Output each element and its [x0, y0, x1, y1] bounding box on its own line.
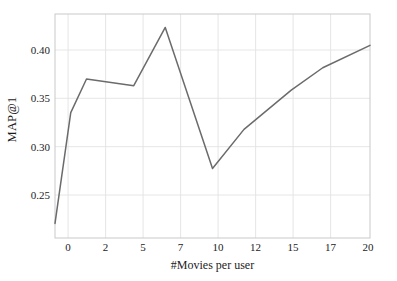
x-axis-tick-labels: 0 2 5 7 10 12 15 17 20: [0, 0, 397, 281]
x-tick-label: 7: [166, 241, 196, 253]
x-tick-label: 20: [353, 241, 383, 253]
x-tick-label: 0: [53, 241, 83, 253]
x-tick-label: 17: [316, 241, 346, 253]
x-axis-title: #Movies per user: [55, 258, 370, 273]
x-tick-label: 5: [128, 241, 158, 253]
x-tick-label: 2: [91, 241, 121, 253]
chart-figure: MAP@1 0.25 0.30 0.35 0.40 0 2 5: [0, 0, 397, 281]
x-tick-label: 12: [241, 241, 271, 253]
x-tick-label: 15: [278, 241, 308, 253]
x-tick-label: 10: [203, 241, 233, 253]
